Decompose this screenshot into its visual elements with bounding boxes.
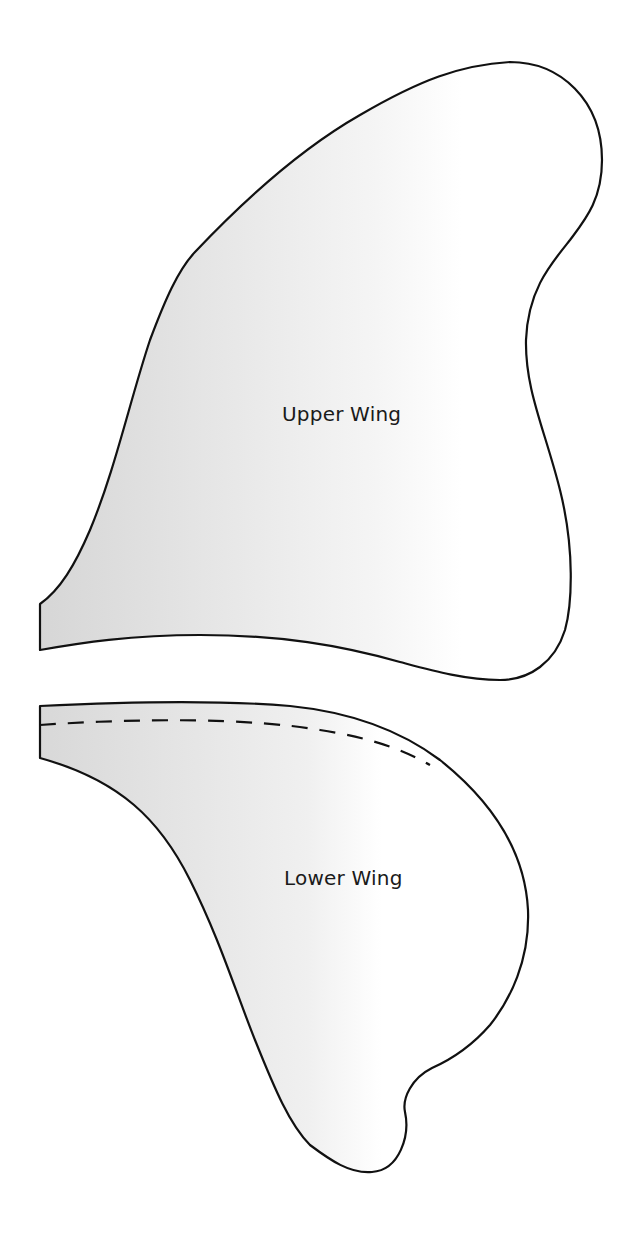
upper-wing-shape [40,62,602,680]
wing-pattern-diagram [0,0,620,1238]
upper-wing-label: Upper Wing [282,402,401,426]
lower-wing-label: Lower Wing [284,866,403,890]
lower-wing-shape [40,702,528,1172]
